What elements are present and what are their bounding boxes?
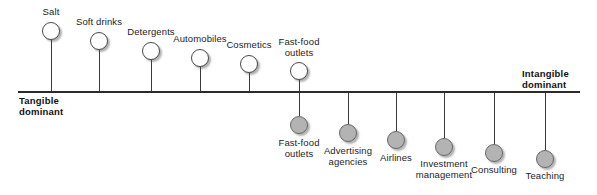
service-bubble-icon <box>387 131 405 149</box>
marker-stem <box>200 67 201 91</box>
service-bubble-icon <box>536 150 554 168</box>
marker-label: Fast-food outlets <box>271 37 327 58</box>
service-bubble-icon <box>290 116 308 134</box>
good-bubble-icon <box>90 32 108 50</box>
marker-label: Consulting <box>463 165 525 176</box>
marker-stem <box>249 73 250 91</box>
marker-stem <box>299 80 300 91</box>
marker-stem <box>51 40 52 91</box>
good-bubble-icon <box>42 22 60 40</box>
marker-stem <box>444 93 445 138</box>
marker-stem <box>545 93 546 150</box>
good-bubble-icon <box>240 55 258 73</box>
marker-label: Teaching <box>517 171 573 182</box>
marker-label: Cosmetics <box>219 40 279 51</box>
marker-stem <box>396 93 397 131</box>
marker-label: Soft drinks <box>68 17 130 28</box>
good-bubble-icon <box>191 49 209 67</box>
marker-stem <box>151 60 152 91</box>
good-bubble-icon <box>142 42 160 60</box>
tangibility-spectrum-diagram: Tangible dominant Intangible dominant Sa… <box>0 0 597 195</box>
axis-right-end-label: Intangible dominant <box>522 68 569 90</box>
service-bubble-icon <box>485 144 503 162</box>
axis-left-end-label: Tangible dominant <box>19 95 63 117</box>
marker-label: Salt <box>26 7 76 18</box>
service-bubble-icon <box>339 124 357 142</box>
marker-stem <box>299 93 300 116</box>
marker-stem <box>348 93 349 124</box>
good-bubble-icon <box>290 62 308 80</box>
marker-stem <box>494 93 495 144</box>
service-bubble-icon <box>435 138 453 156</box>
marker-stem <box>99 50 100 91</box>
